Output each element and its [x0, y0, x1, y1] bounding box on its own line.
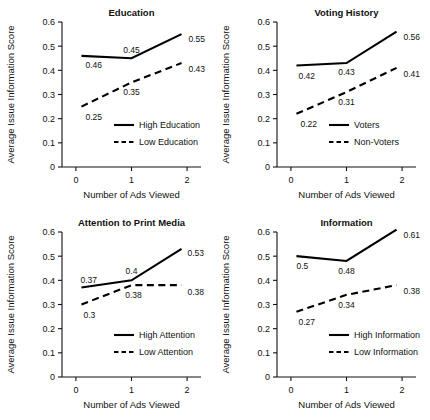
y-tick-label: 0.5	[42, 42, 55, 52]
data-point-label: 0.4	[126, 266, 138, 276]
data-point-label: 0.22	[300, 119, 317, 129]
data-point-label: 0.53	[188, 248, 205, 258]
data-point-label: 0.5	[296, 261, 308, 271]
y-tick-label: 0.1	[42, 348, 55, 358]
y-tick-label: 0	[50, 162, 55, 172]
x-axis-label: Number of Ads Viewed	[83, 399, 179, 410]
y-tick-label: 0.6	[42, 17, 55, 27]
y-tick-label: 0.4	[42, 276, 55, 286]
y-axis-label: Average Issue Information Score	[220, 235, 231, 373]
panel-attention-to-print-media: Attention to Print Media00.10.20.30.40.5…	[0, 210, 215, 420]
data-point-label: 0.25	[85, 112, 102, 122]
legend-label-high: High Attention	[139, 330, 195, 340]
data-point-label: 0.42	[298, 71, 315, 81]
panel-information: Information00.10.20.30.40.50.6012Number …	[215, 210, 430, 420]
data-point-label: 0.46	[85, 60, 102, 70]
x-tick-label: 2	[185, 385, 190, 395]
legend-label-low: Low Information	[354, 347, 418, 357]
x-tick-label: 1	[344, 175, 349, 185]
legend-label-low: Low Attention	[139, 347, 193, 357]
panel-title: Attention to Print Media	[78, 217, 186, 228]
data-point-label: 0.43	[338, 67, 355, 77]
data-point-label: 0.48	[338, 266, 355, 276]
y-tick-label: 0.1	[42, 138, 55, 148]
data-point-label: 0.35	[123, 87, 140, 97]
y-tick-label: 0.2	[42, 324, 55, 334]
data-point-label: 0.31	[338, 97, 355, 107]
x-tick-label: 1	[129, 385, 134, 395]
y-tick-label: 0.5	[42, 252, 55, 262]
x-axis-label: Number of Ads Viewed	[298, 399, 394, 410]
y-axis-label: Average Issue Information Score	[5, 235, 16, 373]
legend-label-high: High Information	[354, 330, 420, 340]
y-tick-label: 0.3	[257, 90, 270, 100]
y-tick-label: 0.2	[42, 114, 55, 124]
y-tick-label: 0.1	[257, 138, 270, 148]
y-tick-label: 0.4	[42, 66, 55, 76]
y-tick-label: 0.6	[257, 17, 270, 27]
x-tick-label: 0	[73, 175, 78, 185]
panel-title: Information	[320, 217, 372, 228]
y-axis-label: Average Issue Information Score	[220, 25, 231, 163]
y-tick-label: 0.5	[257, 42, 270, 52]
y-tick-label: 0.2	[257, 324, 270, 334]
y-tick-label: 0.4	[257, 276, 270, 286]
y-tick-label: 0.6	[42, 227, 55, 237]
data-point-label: 0.56	[404, 32, 421, 42]
plot-canvas: Attention to Print Media00.10.20.30.40.5…	[0, 210, 215, 420]
y-tick-label: 0	[265, 372, 270, 382]
x-tick-label: 2	[400, 385, 405, 395]
data-point-label: 0.38	[125, 290, 142, 300]
panel-title: Voting History	[314, 7, 379, 18]
x-tick-label: 0	[73, 385, 78, 395]
legend-label-low: Non-Voters	[354, 137, 400, 147]
y-tick-label: 0.3	[42, 90, 55, 100]
data-point-label: 0.43	[189, 64, 206, 74]
y-tick-label: 0	[50, 372, 55, 382]
x-tick-label: 2	[185, 175, 190, 185]
figure-panel-grid: Education00.10.20.30.40.50.6012Number of…	[0, 0, 430, 420]
data-point-label: 0.37	[80, 275, 97, 285]
x-tick-label: 1	[129, 175, 134, 185]
x-axis-label: Number of Ads Viewed	[83, 189, 179, 200]
panel-title: Education	[109, 7, 155, 18]
plot-canvas: Voting History00.10.20.30.40.50.6012Numb…	[215, 0, 430, 210]
data-point-label: 0.27	[298, 317, 315, 327]
legend-label-low: Low Education	[139, 137, 198, 147]
series-line-high	[296, 32, 396, 66]
data-point-label: 0.34	[338, 300, 355, 310]
plot-canvas: Education00.10.20.30.40.50.6012Number of…	[0, 0, 215, 210]
data-point-label: 0.38	[188, 287, 205, 297]
panel-education: Education00.10.20.30.40.50.6012Number of…	[0, 0, 215, 210]
series-line-high	[296, 230, 396, 261]
data-point-label: 0.41	[404, 69, 421, 79]
y-axis-label: Average Issue Information Score	[5, 25, 16, 163]
data-point-label: 0.61	[404, 230, 421, 240]
x-axis-label: Number of Ads Viewed	[298, 189, 394, 200]
x-tick-label: 0	[288, 175, 293, 185]
x-tick-label: 2	[400, 175, 405, 185]
data-point-label: 0.38	[404, 286, 421, 296]
panel-voting-history: Voting History00.10.20.30.40.50.6012Numb…	[215, 0, 430, 210]
y-tick-label: 0.3	[257, 300, 270, 310]
y-tick-label: 0.1	[257, 348, 270, 358]
y-tick-label: 0.2	[257, 114, 270, 124]
data-point-label: 0.55	[189, 34, 206, 44]
data-point-label: 0.45	[123, 45, 140, 55]
y-tick-label: 0.5	[257, 252, 270, 262]
x-tick-label: 1	[344, 385, 349, 395]
plot-canvas: Information00.10.20.30.40.50.6012Number …	[215, 210, 430, 420]
y-tick-label: 0	[265, 162, 270, 172]
y-tick-label: 0.3	[42, 300, 55, 310]
x-tick-label: 0	[288, 385, 293, 395]
y-tick-label: 0.4	[257, 66, 270, 76]
legend-label-high: High Education	[139, 120, 200, 130]
y-tick-label: 0.6	[257, 227, 270, 237]
legend-label-high: Voters	[354, 120, 380, 130]
data-point-label: 0.3	[83, 310, 95, 320]
